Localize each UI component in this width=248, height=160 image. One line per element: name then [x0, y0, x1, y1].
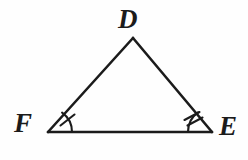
angle-mark-E: [185, 112, 203, 132]
side-FD: [48, 38, 133, 132]
vertex-label-F: F: [14, 110, 32, 137]
vertex-label-D: D: [118, 6, 138, 33]
diagram-canvas: D F E: [0, 0, 248, 160]
vertex-label-E: E: [219, 113, 237, 140]
